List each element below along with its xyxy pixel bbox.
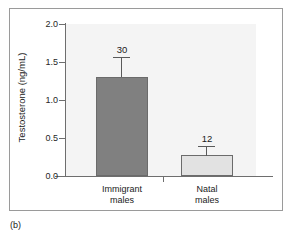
category-label-line-1: Immigrant <box>77 184 167 195</box>
error-bar-stem-natal-males <box>206 146 207 156</box>
y-tick-3 <box>59 62 65 63</box>
category-label-immigrant-males: Immigrant males <box>77 184 167 206</box>
y-tick-4 <box>59 24 65 25</box>
error-bar-cap-natal-males <box>198 146 215 147</box>
y-tick-label-4: 2.0 <box>34 20 58 29</box>
x-tick-center <box>163 177 164 182</box>
y-tick-label-2: 1.0 <box>34 96 58 105</box>
bar-immigrant-males <box>96 77 148 176</box>
y-tick-label-3: 1.5 <box>34 58 58 67</box>
error-bar-cap-immigrant-males <box>113 57 130 58</box>
category-label-line-1: Natal <box>162 184 252 195</box>
panel-caption: (b) <box>10 220 21 230</box>
y-axis-title: Testosterone (ng/mL) <box>16 28 27 168</box>
y-axis-line <box>65 23 66 177</box>
category-label-line-2: males <box>162 195 252 206</box>
y-tick-2 <box>59 100 65 101</box>
plot-area <box>66 24 256 176</box>
category-label-natal-males: Natal males <box>162 184 252 206</box>
value-label-immigrant-males: 30 <box>97 45 147 55</box>
category-label-line-2: males <box>77 195 167 206</box>
value-label-natal-males: 12 <box>182 134 232 144</box>
y-tick-label-1: 0.5 <box>34 134 58 143</box>
y-tick-0 <box>59 176 65 177</box>
y-tick-1 <box>59 138 65 139</box>
y-tick-label-group: 0.0 0.5 1.0 1.5 2.0 <box>30 0 58 238</box>
error-bar-stem-immigrant-males <box>121 57 122 77</box>
x-axis-line <box>55 176 273 177</box>
y-tick-label-0: 0.0 <box>34 172 58 181</box>
bar-natal-males <box>181 155 233 176</box>
